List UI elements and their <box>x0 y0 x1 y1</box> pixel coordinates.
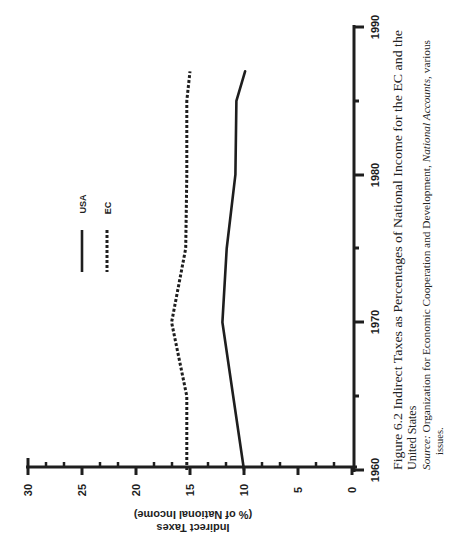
tick-label-0: 0 <box>346 487 358 493</box>
source-line2: issues. <box>434 427 445 455</box>
caption-line2: United States <box>405 405 419 470</box>
tick-label-1970: 1970 <box>369 310 381 334</box>
tick-label-30: 30 <box>22 484 34 496</box>
legend: USA EC <box>78 194 113 272</box>
tick-label-5: 5 <box>292 487 304 493</box>
tick-label-15: 15 <box>184 484 196 496</box>
chart: 30 25 20 15 10 5 0 (% of National Income… <box>0 0 461 538</box>
value-axis: 30 25 20 15 10 5 0 (% of National Income… <box>22 458 358 534</box>
tick-label-25: 25 <box>76 484 88 496</box>
tick-label-1990: 1990 <box>369 15 381 39</box>
legend-item-usa: USA <box>78 194 88 272</box>
value-axis-title: (% of National Income) Indirect Taxes <box>133 509 252 534</box>
legend-label-usa: USA <box>78 194 88 214</box>
series-usa <box>222 71 245 470</box>
tick-label-20: 20 <box>130 484 142 496</box>
tick-label-10: 10 <box>238 484 250 496</box>
legend-label-ec: EC <box>103 201 113 214</box>
value-axis-title-line1: Indirect Taxes <box>156 522 229 534</box>
series-ec <box>172 71 190 470</box>
source-italic: National Accounts, <box>421 76 432 163</box>
figure-caption: Figure 6.2 Indirect Taxes as Percentages… <box>391 30 445 470</box>
value-axis-title-line2: (% of National Income) <box>133 509 252 521</box>
ec-line <box>172 71 190 470</box>
source-label: Source: <box>421 435 432 470</box>
source-text-1: Organization for Economic Cooperation an… <box>421 165 432 432</box>
year-axis-tick-labels: 1960 1970 1980 1990 <box>369 15 381 482</box>
source-line1: Source: Organization for Economic Cooper… <box>421 40 432 470</box>
value-axis-tick-labels: 30 25 20 15 10 5 0 <box>22 484 358 496</box>
caption-line1: Figure 6.2 Indirect Taxes as Percentages… <box>391 30 405 470</box>
usa-line <box>222 71 245 470</box>
tick-label-1980: 1980 <box>369 163 381 187</box>
year-axis: 1960 1970 1980 1990 <box>354 15 381 482</box>
legend-item-ec: EC <box>103 201 113 272</box>
source-text-2: various <box>421 40 432 73</box>
tick-label-1960: 1960 <box>369 458 381 482</box>
